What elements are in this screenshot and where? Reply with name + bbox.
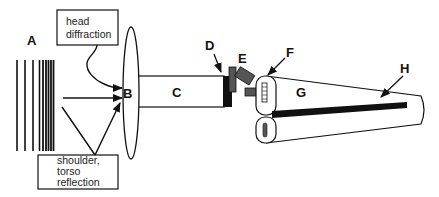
label-a: A [27, 33, 37, 48]
label-d: D [205, 38, 214, 53]
shoulder-line3: reflection [57, 176, 100, 188]
label-b: B [123, 86, 132, 101]
label-e: E [238, 51, 247, 66]
label-f: F [286, 45, 294, 60]
head-diffraction-arrow [87, 45, 122, 88]
label-h: H [400, 61, 409, 76]
head-diffraction-callout: head diffraction [57, 10, 118, 45]
d-pointer-arrow [214, 54, 221, 72]
label-g: G [296, 85, 306, 100]
head-diffraction-line1: head [66, 15, 90, 27]
shoulder-torso-callout: shoulder, torso reflection [38, 154, 118, 189]
head-diffraction-line2: diffraction [66, 28, 111, 40]
shoulder-reflection-arrow [62, 103, 120, 155]
f-pointer-arrow [268, 58, 285, 75]
label-c: C [172, 85, 182, 100]
sound-wave-lines [17, 60, 54, 151]
ear-diagram: A head diffraction shoulder, torso refle… [0, 0, 439, 197]
